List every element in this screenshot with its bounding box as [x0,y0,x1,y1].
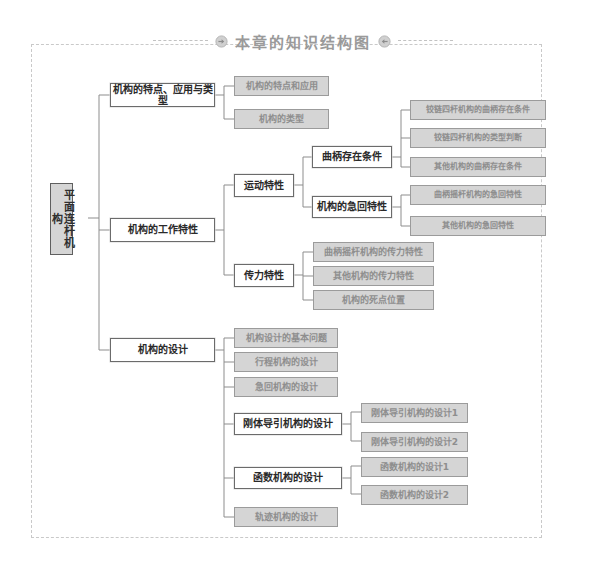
node-b3c4[interactable]: 刚体导引机构的设计 [234,413,342,435]
node-root[interactable]: 平面连杆机构 [50,183,73,255]
node-b3c1[interactable]: 机构设计的基本问题 [234,328,338,348]
node-b1c2[interactable]: 机构的类型 [234,109,329,129]
node-b3c2[interactable]: 行程机构的设计 [234,352,338,372]
node-b3c5a[interactable]: 函数机构的设计1 [361,457,468,477]
node-b2c1a1[interactable]: 铰链四杆机构的曲柄存在条件 [410,100,546,120]
node-b3c5b[interactable]: 函数机构的设计2 [361,485,468,505]
node-b2c2c[interactable]: 机构的死点位置 [313,290,434,310]
node-b2c1b2[interactable]: 其他机构的急回特性 [410,216,546,236]
node-b2c1a3[interactable]: 其他机构的曲柄存在条件 [410,157,546,177]
node-b2c1b[interactable]: 机构的急回特性 [312,196,392,218]
node-b2c2b[interactable]: 其他机构的传力特性 [313,266,434,286]
node-b3c4b[interactable]: 刚体导引机构的设计2 [361,432,468,452]
node-b2c1a2[interactable]: 铰链四杆机构的类型判断 [410,128,546,148]
node-b2c1a[interactable]: 曲柄存在条件 [312,146,392,168]
node-b3[interactable]: 机构的设计 [110,338,215,362]
node-b3c4a[interactable]: 刚体导引机构的设计1 [361,403,468,423]
node-b2c2a[interactable]: 曲柄摇杆机构的传力特性 [313,242,434,262]
node-b3c5[interactable]: 函数机构的设计 [234,467,342,489]
node-b3c6[interactable]: 轨迹机构的设计 [234,507,338,527]
node-b2[interactable]: 机构的工作特性 [110,218,215,242]
node-b2c2[interactable]: 传力特性 [234,264,294,287]
node-b3c3[interactable]: 急回机构的设计 [234,377,338,397]
node-b1[interactable]: 机构的特点、应用与类型 [110,83,215,107]
knowledge-structure-diagram: 本章的知识结构图 [0,0,605,574]
node-b1c1[interactable]: 机构的特点和应用 [234,76,329,96]
node-b2c1b1[interactable]: 曲柄摇杆机构的急回特性 [410,185,546,205]
node-b2c1[interactable]: 运动特性 [234,174,294,197]
